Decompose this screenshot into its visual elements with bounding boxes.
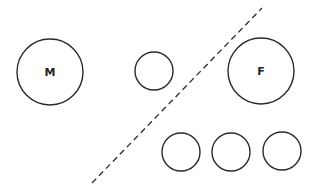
diagram-canvas: M F <box>0 0 312 193</box>
label-f: F <box>257 65 265 78</box>
circle-f: F <box>228 38 294 104</box>
circle-small-bottom-3 <box>263 132 301 170</box>
dashed-divider-line <box>92 8 262 183</box>
circle-small-bottom-1 <box>162 133 200 171</box>
circle-small-bottom-2 <box>212 133 250 171</box>
circle-small-left <box>135 52 173 90</box>
circle-m: M <box>17 39 83 105</box>
label-m: M <box>45 66 56 79</box>
